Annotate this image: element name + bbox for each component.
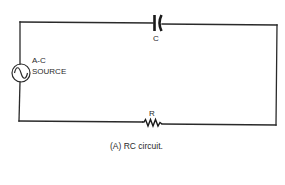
source-label-line1: A-C: [32, 57, 46, 65]
wire-bottom-left: [19, 121, 142, 122]
resistor-label: R: [149, 110, 155, 118]
source-label-line2: SOURCE: [32, 68, 66, 76]
capacitor-symbol: [155, 15, 162, 31]
figure-caption: (A) RC circuit.: [110, 141, 163, 151]
resistor-symbol: [142, 120, 162, 127]
ac-source-symbol: [12, 64, 30, 82]
capacitor-label: C: [153, 35, 159, 43]
wire-top-right: [162, 24, 277, 25]
wire-left-lower: [19, 82, 20, 121]
wire-bottom-right: [162, 124, 276, 125]
wire-right: [276, 25, 277, 125]
wire-top-left: [20, 22, 153, 23]
circuit-diagram: [0, 0, 285, 185]
